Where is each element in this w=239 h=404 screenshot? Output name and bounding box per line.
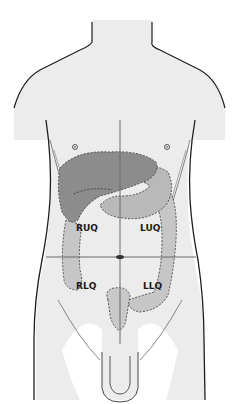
umbilicus [116,255,124,259]
torso-illustration [0,0,239,404]
quadrant-label-luq: LUQ [140,223,160,233]
quadrant-label-llq: LLQ [143,281,162,291]
quadrant-label-ruq: RUQ [76,223,98,233]
abdominal-quadrant-diagram: RUQ LUQ RLQ LLQ [0,0,239,404]
quadrant-label-rlq: RLQ [76,281,96,291]
